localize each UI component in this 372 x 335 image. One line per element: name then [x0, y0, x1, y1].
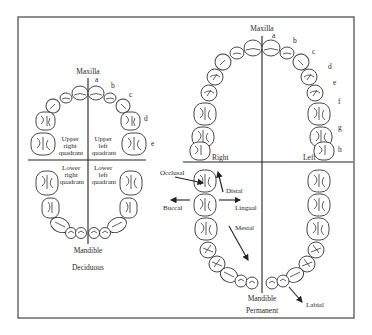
- direction-indicators: Occlusal Distal Buccal Lingual Mesial La…: [160, 169, 324, 309]
- permanent-tooth-letter-f: f: [338, 97, 341, 106]
- mesial-label: Mesial: [235, 224, 254, 232]
- permanent-mandible-label: Mandible: [248, 294, 277, 303]
- permanent-tooth-letter-d: d: [328, 62, 332, 71]
- buccal-label: Buccal: [163, 204, 182, 212]
- occlusal-label: Occlusal: [160, 169, 185, 177]
- lower-left-quadrant-label: Lower left quadrant: [92, 164, 117, 186]
- dental-arch-diagram: Maxilla a b c d e Upper right quadrant: [0, 0, 372, 335]
- deciduous-mandible-label: Mandible: [74, 246, 103, 255]
- permanent-tooth-letter-b: b: [293, 36, 297, 45]
- permanent-tooth-letter-h: h: [338, 145, 342, 154]
- distal-arrow: [218, 172, 223, 192]
- deciduous-dentition: Maxilla a b c d e Upper right quadrant: [28, 67, 155, 272]
- deciduous-tooth-letter-b: b: [111, 81, 115, 90]
- permanent-right-label: Right: [212, 153, 230, 162]
- lingual-label: Lingual: [235, 204, 257, 212]
- permanent-caption: Permanent: [246, 306, 279, 315]
- deciduous-caption: Deciduous: [72, 263, 104, 272]
- deciduous-lower-teeth: [36, 171, 142, 239]
- deciduous-tooth-letter-c: c: [129, 90, 133, 99]
- permanent-dentition: Maxilla a b c d e f: [160, 24, 353, 315]
- permanent-tooth-letter-e: e: [333, 78, 337, 87]
- distal-label: Distal: [226, 187, 243, 195]
- upper-left-quadrant-label: Upper left quadrant: [92, 135, 117, 157]
- labial-label: Labial: [306, 301, 324, 309]
- permanent-maxilla-label: Maxilla: [250, 24, 274, 33]
- deciduous-tooth-letter-e: e: [151, 139, 155, 148]
- permanent-tooth-letter-g: g: [338, 123, 342, 132]
- lower-right-quadrant-label: Lower right quadrant: [60, 164, 85, 186]
- upper-right-quadrant-label: Upper right quadrant: [59, 135, 84, 157]
- permanent-tooth-letter-c: c: [312, 47, 316, 56]
- permanent-left-label: Left: [303, 153, 316, 162]
- deciduous-tooth-letter-a: a: [95, 75, 99, 84]
- labial-arrow: [289, 287, 302, 302]
- permanent-tooth-letter-a: a: [272, 31, 276, 40]
- deciduous-tooth-letter-d: d: [144, 114, 148, 123]
